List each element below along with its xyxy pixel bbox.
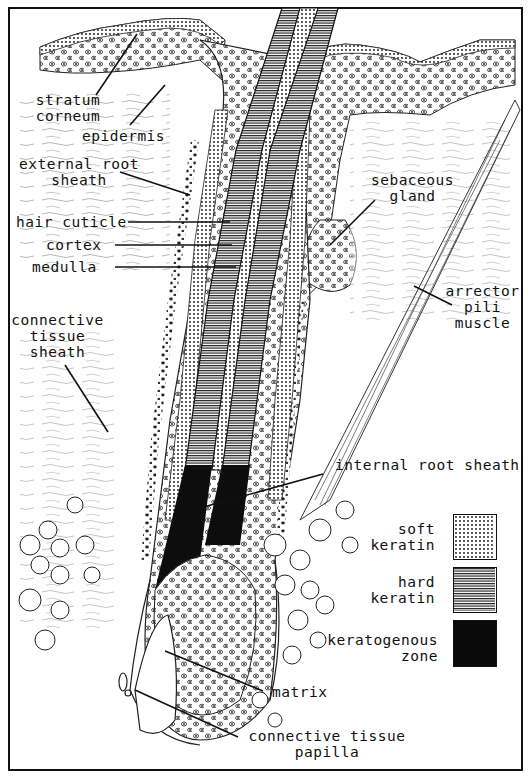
label-medulla: medulla [32, 259, 97, 275]
legend-label-hard-keratin: hard keratin [360, 574, 435, 606]
label-stratum-corneum-text: stratum corneum [36, 92, 101, 124]
legend-swatch-keratogenous-zone [453, 620, 497, 667]
label-sebaceous-gland: sebaceous gland [365, 172, 460, 204]
legend-swatch-soft-keratin [453, 514, 497, 560]
label-external-root-sheath: external root sheath [14, 156, 144, 188]
legend-swatch-hard-keratin [453, 567, 497, 613]
label-connective-tissue-papilla: connective tissue papilla [242, 728, 412, 760]
label-hair-cuticle: hair cuticle [16, 214, 127, 230]
label-epidermis: epidermis [82, 128, 165, 144]
label-matrix: matrix [272, 684, 327, 700]
label-arrector-pili-muscle: arrector pili muscle [445, 283, 520, 331]
label-connective-tissue-sheath: connective tissue sheath [10, 312, 105, 360]
label-internal-root-sheath: internal root sheath [335, 457, 520, 473]
legend-label-keratogenous-zone: keratogenous zone [315, 632, 438, 664]
legend-label-soft-keratin: soft keratin [360, 521, 435, 553]
lines-pattern-icon [454, 568, 495, 611]
label-stratum-corneum: stratum corneum [28, 92, 108, 124]
dots-pattern-icon [454, 515, 495, 558]
label-cortex: cortex [46, 237, 101, 253]
